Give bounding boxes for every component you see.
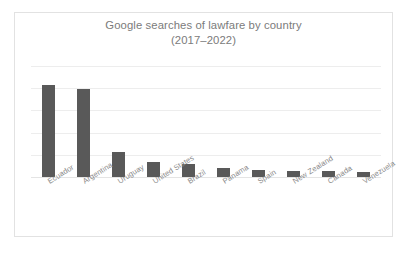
chart-title: Google searches of lawfare by country (2… bbox=[14, 18, 393, 48]
chart-figure: Google searches of lawfare by country (2… bbox=[0, 0, 408, 254]
bar bbox=[42, 85, 55, 178]
chart-title-line-2: (2017–2022) bbox=[14, 33, 393, 48]
x-axis-labels: EcuadorArgentinaUruguayUnited StatesBraz… bbox=[31, 178, 381, 238]
bar bbox=[77, 89, 90, 177]
chart-title-line-1: Google searches of lawfare by country bbox=[14, 18, 393, 33]
